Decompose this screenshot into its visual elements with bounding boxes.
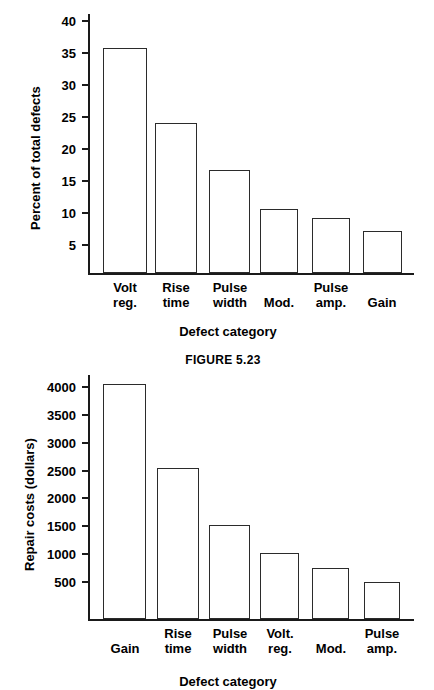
y-tick-top-5 <box>82 244 89 246</box>
figure-caption: FIGURE 5.23 <box>153 353 293 367</box>
y-tick-top-15 <box>82 180 89 182</box>
bar-volt-reg <box>103 48 147 273</box>
x-cat-label-mod: Mod. <box>249 295 309 310</box>
x-axis-line-bottom <box>88 619 414 621</box>
y-tick-top-20 <box>82 148 89 150</box>
bar-gain-cost <box>103 384 146 619</box>
y-tick-label-top-20: 20 <box>38 143 76 156</box>
y-tick-label-top-15: 15 <box>38 175 76 188</box>
y-tick-bottom-500 <box>82 581 89 583</box>
bar-mod <box>260 209 298 273</box>
bar-volt-reg-cost <box>260 553 299 619</box>
y-tick-top-10 <box>82 212 89 214</box>
y-tick-label-bottom-3500: 3500 <box>26 409 76 422</box>
y-tick-bottom-2500 <box>82 470 89 472</box>
bar-pulse-width-cost <box>209 525 250 619</box>
x-cat-label-gain-cost: Gain <box>95 641 155 656</box>
x-cat-label-pulse-amp-cost: Pulse amp. <box>352 626 412 656</box>
y-axis-title-bottom: Repair costs (dollars) <box>22 438 37 571</box>
bar-pulse-width <box>209 170 250 273</box>
x-cat-label-gain: Gain <box>352 295 412 310</box>
y-axis-title-top: Percent of total defects <box>28 86 43 230</box>
y-tick-bottom-2000 <box>82 497 89 499</box>
y-tick-label-bottom-4000: 4000 <box>26 381 76 394</box>
y-tick-top-25 <box>82 116 89 118</box>
y-tick-label-top-25: 25 <box>38 111 76 124</box>
y-tick-bottom-3500 <box>82 414 89 416</box>
plot-area-bottom: FIGURE 5.23 4000 3500 3000 2500 2000 150… <box>0 345 434 690</box>
y-tick-bottom-1000 <box>82 553 89 555</box>
y-tick-label-top-30: 30 <box>38 79 76 92</box>
y-tick-bottom-1500 <box>82 525 89 527</box>
bar-pulse-amp-cost <box>364 582 400 619</box>
chart-percent-of-total-defects: 40 35 30 25 20 15 10 5 Volt reg. Rise ti… <box>0 0 434 345</box>
bar-rise-time <box>155 123 197 273</box>
bar-mod-cost <box>312 568 349 619</box>
chart-repair-costs: FIGURE 5.23 4000 3500 3000 2500 2000 150… <box>0 345 434 690</box>
x-axis-title-bottom: Defect category <box>128 674 328 689</box>
y-tick-top-30 <box>82 84 89 86</box>
bar-pulse-amp <box>312 218 350 273</box>
plot-area-top: 40 35 30 25 20 15 10 5 Volt reg. Rise ti… <box>0 0 434 345</box>
y-tick-top-35 <box>82 52 89 54</box>
y-tick-top-40 <box>82 20 89 22</box>
y-tick-label-top-40: 40 <box>38 15 76 28</box>
bar-rise-time-cost <box>157 468 199 619</box>
x-axis-line-top <box>88 273 414 275</box>
y-tick-bottom-4000 <box>82 386 89 388</box>
bar-gain <box>363 231 402 273</box>
x-axis-title-top: Defect category <box>128 324 328 339</box>
y-tick-label-top-10: 10 <box>38 207 76 220</box>
y-tick-label-top-5: 5 <box>38 239 76 252</box>
y-tick-label-bottom-500: 500 <box>26 576 76 589</box>
y-tick-bottom-3000 <box>82 442 89 444</box>
y-tick-label-top-35: 35 <box>38 47 76 60</box>
